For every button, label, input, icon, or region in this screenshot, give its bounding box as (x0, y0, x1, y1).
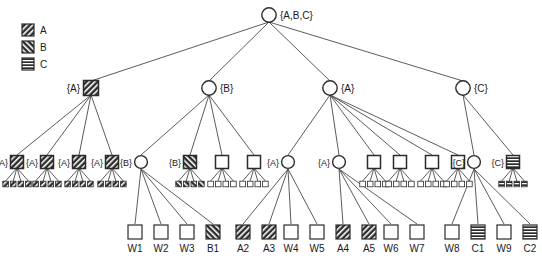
named-leaf-node[interactable] (471, 225, 485, 239)
micro-leaf-node[interactable] (113, 181, 119, 187)
tree-node-level3[interactable] (11, 156, 24, 169)
tree-node-level3[interactable] (135, 156, 148, 169)
micro-leaf-node[interactable] (18, 181, 24, 187)
named-leaf-node[interactable] (154, 225, 168, 239)
micro-leaf-node[interactable] (444, 181, 450, 187)
tree-node-level2[interactable] (84, 81, 99, 96)
micro-leaf-node[interactable] (40, 181, 46, 187)
micro-leaf-node[interactable] (183, 181, 189, 187)
micro-leaf-node[interactable] (393, 181, 399, 187)
tree-edge (135, 169, 141, 224)
named-leaf-label: W8 (445, 243, 460, 254)
named-leaf-node[interactable] (206, 225, 220, 239)
tree-node-level3[interactable] (426, 156, 439, 169)
tree-node-level3[interactable] (368, 156, 381, 169)
tree-node-level2[interactable] (323, 81, 337, 95)
micro-leaf-node[interactable] (240, 181, 246, 187)
micro-leaf-node[interactable] (375, 181, 381, 187)
micro-leaf-node[interactable] (65, 181, 71, 187)
micro-leaf-node[interactable] (208, 181, 214, 187)
legend-pattern-c-swatch (22, 58, 34, 70)
node-label-level3: {A} (91, 158, 103, 168)
micro-leaf-node[interactable] (433, 181, 439, 187)
micro-leaf-node[interactable] (72, 181, 78, 187)
micro-leaf-node[interactable] (255, 181, 261, 187)
named-leaf-node[interactable] (336, 225, 350, 239)
tree-node-level3[interactable] (468, 156, 481, 169)
micro-leaf-node[interactable] (231, 181, 237, 187)
tree-edge (474, 169, 504, 224)
named-leaf-node[interactable] (310, 225, 324, 239)
micro-leaf-node[interactable] (418, 181, 424, 187)
tree-edge (269, 169, 288, 224)
named-leaf-node[interactable] (180, 225, 194, 239)
micro-leaf-node[interactable] (199, 181, 205, 187)
tree-node-level3[interactable] (41, 156, 54, 169)
micro-leaf-node[interactable] (467, 181, 473, 187)
named-leaf-node[interactable] (384, 225, 398, 239)
micro-leaf-node[interactable] (10, 181, 16, 187)
tree-node-level2[interactable] (202, 81, 216, 95)
micro-leaf-node[interactable] (263, 181, 269, 187)
micro-leaf-node[interactable] (499, 181, 505, 187)
micro-leaf-node[interactable] (522, 181, 528, 187)
named-leaf-node[interactable] (497, 225, 511, 239)
micro-leaf-node[interactable] (191, 181, 197, 187)
micro-leaf-node[interactable] (459, 181, 465, 187)
tree-node-level3[interactable] (106, 156, 119, 169)
micro-leaf-node[interactable] (506, 181, 512, 187)
micro-leaf-node[interactable] (401, 181, 407, 187)
tree-node-level3[interactable] (282, 156, 295, 169)
tree-edge (330, 95, 400, 155)
micro-leaf-node[interactable] (247, 181, 253, 187)
micro-leaf-node[interactable] (121, 181, 127, 187)
node-label-level3: {A} (267, 158, 279, 168)
micro-leaf-node[interactable] (425, 181, 431, 187)
micro-leaf-node[interactable] (33, 181, 39, 187)
named-leaf-node[interactable] (128, 225, 142, 239)
micro-leaf-node[interactable] (48, 181, 54, 187)
node-label-level3: {B} (169, 158, 181, 168)
tree-node-level3[interactable] (184, 156, 197, 169)
tree-node-root[interactable] (262, 8, 276, 22)
tree-node-level3[interactable] (333, 156, 346, 169)
tree-edge (330, 95, 432, 155)
legend-label: C (40, 59, 47, 70)
micro-leaf-node[interactable] (409, 181, 415, 187)
micro-leaf-node[interactable] (223, 181, 229, 187)
tree-node-level3[interactable] (507, 156, 520, 169)
node-label-level3: {A} (318, 158, 330, 168)
edge-group (6, 22, 530, 224)
micro-leaf-node[interactable] (80, 181, 86, 187)
micro-leaf-node[interactable] (88, 181, 94, 187)
named-leaf-node[interactable] (523, 225, 537, 239)
named-leaf-node[interactable] (362, 225, 376, 239)
micro-leaf-node[interactable] (215, 181, 221, 187)
tree-node-level3[interactable] (248, 156, 261, 169)
micro-leaf-node[interactable] (3, 181, 9, 187)
diagram-svg: W1W2W3B1A2A3W4W5A4A5W6W7W8C1W9C2{A}{A}{A… (0, 0, 542, 264)
micro-leaf-node[interactable] (105, 181, 111, 187)
micro-leaf-node[interactable] (360, 181, 366, 187)
micro-leaf-node[interactable] (514, 181, 520, 187)
named-leaf-node[interactable] (284, 225, 298, 239)
tree-node-level3[interactable] (394, 156, 407, 169)
named-leaf-node[interactable] (410, 225, 424, 239)
micro-leaf-node[interactable] (367, 181, 373, 187)
micro-leaf-node[interactable] (176, 181, 182, 187)
tree-node-level3[interactable] (73, 156, 86, 169)
micro-leaf-node[interactable] (56, 181, 62, 187)
micro-leaf-node[interactable] (26, 181, 32, 187)
micro-leaf-node[interactable] (386, 181, 392, 187)
named-leaf-node[interactable] (236, 225, 250, 239)
tree-node-level3[interactable] (216, 156, 229, 169)
tree-node-level2[interactable] (456, 81, 470, 95)
node-label-level3: {A} (0, 158, 8, 168)
named-leaf-node[interactable] (262, 225, 276, 239)
tree-edge (339, 169, 417, 224)
named-leaf-node[interactable] (445, 225, 459, 239)
micro-leaf-node[interactable] (451, 181, 457, 187)
tree-edge (209, 22, 269, 81)
named-leaf-label: A3 (263, 243, 276, 254)
micro-leaf-node[interactable] (98, 181, 104, 187)
